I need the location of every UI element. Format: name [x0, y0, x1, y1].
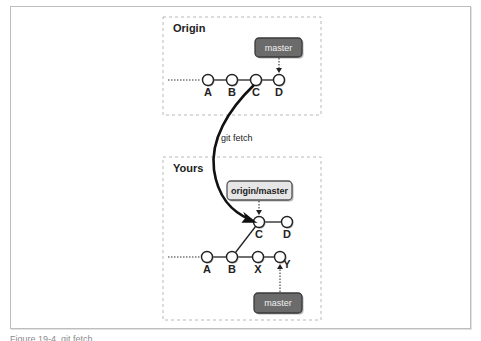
- figure: Origin ABCDmaster Yours ABXYCDorigin/mas…: [0, 0, 481, 341]
- commit-node-a: A: [203, 75, 215, 99]
- origin-commit-graph: ABCDmaster: [168, 38, 304, 98]
- commit-label: C: [252, 86, 260, 98]
- commit-node-y: Y: [275, 252, 292, 271]
- ref-label: master: [265, 43, 293, 53]
- arrowhead-icon: [256, 210, 262, 215]
- commit-circle: [274, 75, 285, 86]
- commit-label: C: [255, 228, 263, 240]
- your-repository: Yours ABXYCDorigin/mastermaster: [163, 157, 321, 320]
- commit-node-d: D: [274, 75, 286, 99]
- commit-node-b: B: [227, 252, 239, 276]
- commit-node-a: A: [202, 252, 214, 276]
- commit-node-b: B: [227, 75, 239, 99]
- arrowhead-icon: [276, 68, 282, 73]
- yours-region-title: Yours: [173, 162, 203, 174]
- git-fetch-label: git fetch: [221, 133, 253, 143]
- commit-label: D: [275, 86, 283, 98]
- commit-label: B: [228, 86, 236, 98]
- commit-node-d: D: [282, 217, 294, 241]
- ref-label: master: [264, 298, 292, 308]
- commit-node-c: C: [254, 217, 266, 241]
- origin-region-title: Origin: [173, 22, 206, 34]
- commit-circle: [227, 75, 238, 86]
- commit-circle: [253, 252, 264, 263]
- commit-circle: [203, 75, 214, 86]
- commit-label: Y: [283, 258, 291, 270]
- commit-circle: [282, 217, 293, 228]
- figure-caption: Figure 19-4. git fetch: [10, 334, 93, 341]
- commit-node-x: X: [253, 252, 265, 276]
- commit-circle: [202, 252, 213, 263]
- git-fetch-diagram: Origin ABCDmaster Yours ABXYCDorigin/mas…: [0, 0, 481, 341]
- commit-label: X: [254, 263, 262, 275]
- commit-circle: [251, 75, 262, 86]
- arrowhead-icon: [277, 264, 283, 269]
- commit-circle: [227, 252, 238, 263]
- ref-label: origin/master: [231, 186, 289, 196]
- commit-label: D: [283, 228, 291, 240]
- yours-commit-graph: ABXYCDorigin/mastermaster: [168, 181, 304, 315]
- ref-origin-master: origin/master: [227, 181, 294, 215]
- commit-label: A: [203, 263, 211, 275]
- commit-label: B: [228, 263, 236, 275]
- origin-repository: Origin ABCDmaster: [163, 17, 321, 115]
- ref-master: master: [255, 38, 304, 73]
- commit-label: A: [204, 86, 212, 98]
